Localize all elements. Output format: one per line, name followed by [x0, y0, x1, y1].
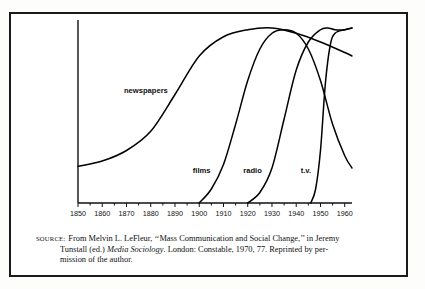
source-caption: Source:From Melvin L. LeFleur, ‘‘Mass Co…: [36, 234, 396, 266]
x-tick-label: 1900: [191, 209, 207, 218]
x-tick-label: 1940: [288, 209, 304, 218]
x-tick-label: 1930: [264, 209, 280, 218]
caption-line-2: Tunstall (ed.) Media Sociology. London: …: [36, 245, 396, 256]
curve-label-films: films: [193, 166, 211, 175]
curve-label-newspapers: newspapers: [124, 86, 168, 95]
x-axis-tick-labels: 1850186018701880189019001910192019301940…: [70, 209, 353, 218]
plot-area: 1850186018701880189019001910192019301940…: [9, 12, 408, 237]
caption-line-1: Source:From Melvin L. LeFleur, ‘‘Mass Co…: [36, 234, 396, 245]
x-tick-label: 1870: [118, 209, 134, 218]
source-label: Source:: [36, 235, 65, 242]
caption-line-2-pre: Tunstall (ed.): [60, 245, 107, 254]
caption-line-3: mission of the author.: [36, 255, 396, 266]
x-tick-label: 1850: [70, 209, 86, 218]
chart-svg: 1850186018701880189019001910192019301940…: [9, 12, 408, 237]
figure-root: 1850186018701880189019001910192019301940…: [0, 0, 425, 289]
x-tick-label: 1860: [94, 209, 110, 218]
x-tick-label: 1960: [337, 209, 353, 218]
curve-radio: [248, 28, 352, 203]
curve-label-tv: t.v.: [301, 166, 311, 175]
caption-line-1-text: From Melvin L. LeFleur, ‘‘Mass Communica…: [68, 234, 339, 243]
curve-newspapers: [78, 28, 352, 166]
caption-book-title: Media Sociology: [107, 245, 164, 254]
curve-tv: [311, 28, 352, 203]
x-tick-label: 1950: [312, 209, 328, 218]
caption-line-2-post: . London: Constable, 1970, 77. Reprinted…: [163, 245, 328, 254]
x-tick-label: 1910: [215, 209, 231, 218]
curve-label-radio: radio: [243, 166, 262, 175]
x-tick-label: 1880: [143, 209, 159, 218]
data-curves: [78, 28, 352, 203]
axes: [78, 20, 352, 203]
x-tick-label: 1920: [240, 209, 256, 218]
x-tick-label: 1890: [167, 209, 183, 218]
